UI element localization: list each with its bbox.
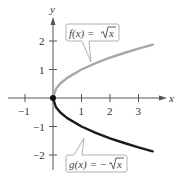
square-root-graph: x y −1 1 2 3 2 1 −1 −2 f(x) = x: [0, 0, 176, 179]
y-tick-label-1: 1: [39, 64, 45, 76]
y-tick-label-2: 2: [39, 35, 45, 47]
f-label-text: f(x) =: [69, 27, 94, 40]
g-radicand: x: [116, 158, 122, 170]
f-sqrt-curve: [53, 45, 153, 98]
y-axis-label: y: [49, 3, 55, 15]
x-tick-label-neg1: −1: [18, 105, 30, 117]
x-tick-label-1: 1: [79, 105, 85, 117]
y-tick-label-neg1: −1: [33, 121, 45, 133]
y-tick-label-neg2: −2: [33, 149, 45, 161]
x-tick-label-3: 3: [136, 105, 142, 117]
x-tick-label-2: 2: [107, 105, 113, 117]
chart-container: x y −1 1 2 3 2 1 −1 −2 f(x) = x: [0, 0, 176, 179]
f-radicand: x: [108, 27, 114, 39]
origin-point: [50, 95, 56, 101]
g-label-callout: g(x) = − x: [66, 138, 127, 172]
x-axis-arrow-icon: [159, 96, 167, 101]
x-axis-label: x: [168, 92, 174, 104]
y-axis-arrow-icon: [51, 17, 56, 25]
g-label-text: g(x) = −: [69, 158, 107, 171]
